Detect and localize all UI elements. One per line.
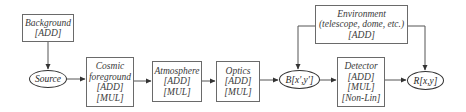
detector-node: Detector [ADD] [MUL] [Non-Lin] <box>337 57 385 107</box>
environment-label: Environment <box>337 9 386 20</box>
environment-tag-add: [ADD] <box>348 30 375 41</box>
optics-tag-add: [ADD] <box>225 76 252 87</box>
detector-tag-nonlin: [Non-Lin] <box>341 93 380 104</box>
cosmic-foreground-node: Cosmic foreground [ADD] [MUL] <box>86 57 134 107</box>
edge-environment-r <box>407 26 425 70</box>
optics-node: Optics [ADD] [MUL] <box>216 61 260 102</box>
b-node: B[x',y'] <box>279 70 320 89</box>
environment-sublabel: (telescope, dome, etc.) <box>319 19 404 30</box>
cosmic-tag-mul: [MUL] <box>96 93 123 104</box>
source-label: Source <box>35 74 61 84</box>
cosmic-label-1: Cosmic <box>96 61 125 72</box>
source-node: Source <box>29 70 67 88</box>
background-label: Background <box>25 18 71 29</box>
cosmic-tag-add: [ADD] <box>97 82 124 93</box>
r-node: R[x,y] <box>407 71 444 90</box>
atmosphere-tag-add: [ADD] <box>164 76 191 87</box>
environment-node: Environment (telescope, dome, etc.) [ADD… <box>315 5 408 44</box>
atmosphere-label: Atmosphere <box>154 66 199 77</box>
detector-label: Detector <box>344 61 377 72</box>
optics-tag-mul: [MUL] <box>224 87 251 98</box>
b-label: B[x',y'] <box>285 75 313 85</box>
atmosphere-node: Atmosphere [ADD] [MUL] <box>152 61 202 102</box>
background-node: Background [ADD] <box>22 14 74 42</box>
signal-chain-diagram: Background [ADD] Source Cosmic foregroun… <box>0 0 466 112</box>
edge-environment-b <box>298 26 315 69</box>
r-label: R[x,y] <box>413 76 437 86</box>
detector-tag-add: [ADD] <box>348 72 375 83</box>
detector-tag-mul: [MUL] <box>347 82 374 93</box>
background-tag-add: [ADD] <box>35 28 62 39</box>
atmosphere-tag-mul: [MUL] <box>163 87 190 98</box>
cosmic-label-2: foreground <box>89 72 131 83</box>
optics-label: Optics <box>226 66 251 77</box>
